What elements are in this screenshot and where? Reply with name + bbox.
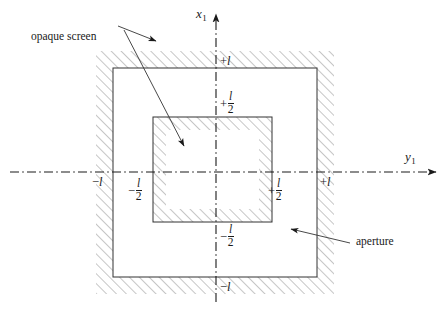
y1-axis-label: y1 [405,150,416,166]
y1-axis-subscript: 1 [411,156,416,166]
fraction-numerator: l [228,91,234,104]
tick-lower-half-sign: − [220,230,227,244]
aperture-edge-hatching [153,117,272,222]
tick-lower-half: −l2 [220,224,234,249]
opaque-screen-label: opaque screen [31,31,96,43]
optics-aperture-diagram: opaque screen aperture x1 y1 +l +l2 −l2 … [0,0,445,311]
tick-left-outer: −l [92,176,103,189]
tick-right-outer-value: l [327,175,330,189]
tick-upper-half: +l2 [220,91,234,116]
tick-top: +l [220,55,231,68]
tick-left-outer-sign: − [92,175,99,189]
fraction: l2 [276,178,282,203]
y1-axis-symbol: y [405,149,411,164]
fraction: l2 [136,178,142,203]
x1-axis-label: x1 [196,7,207,23]
opaque-screen-leader-short [118,26,156,41]
tick-left-half: −l2 [128,178,142,203]
fraction-numerator: l [276,178,282,191]
tick-bottom-value: l [227,280,230,294]
fraction-numerator: l [136,178,142,191]
tick-bottom-sign: − [220,280,227,294]
tick-bottom: −l [220,281,231,294]
tick-top-value: l [227,54,230,68]
fraction-denominator: 2 [228,104,234,116]
fraction-denominator: 2 [228,237,234,249]
aperture-label: aperture [356,236,394,248]
x1-axis-symbol: x [196,6,202,21]
tick-left-half-sign: − [128,184,135,198]
tick-right-outer-sign: + [320,175,327,189]
fraction: l2 [228,91,234,116]
tick-right-outer: +l [320,176,331,189]
fraction-numerator: l [228,224,234,237]
diagram-canvas [0,0,445,311]
fraction: l2 [228,224,234,249]
x1-axis-subscript: 1 [202,13,207,23]
tick-right-half-sign: + [268,184,275,198]
tick-left-outer-value: l [99,175,102,189]
fraction-denominator: 2 [276,191,282,203]
tick-top-sign: + [220,54,227,68]
tick-upper-half-sign: + [220,97,227,111]
fraction-denominator: 2 [136,191,142,203]
tick-right-half: +l2 [268,178,282,203]
